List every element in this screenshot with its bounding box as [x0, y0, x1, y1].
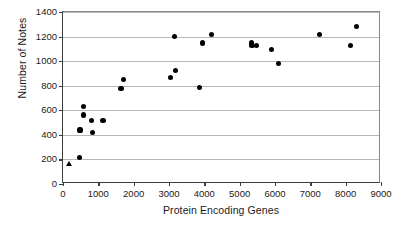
y-tick-mark [59, 37, 63, 38]
y-tick-label: 600 [41, 104, 57, 116]
data-point [168, 75, 173, 80]
data-point [90, 130, 95, 135]
x-tick-label: 8000 [335, 188, 356, 200]
y-tick-label: 0 [52, 178, 57, 190]
gridline [63, 12, 379, 13]
data-point [81, 104, 86, 109]
data-point [254, 43, 259, 48]
data-point [197, 85, 202, 90]
x-tick-mark [63, 182, 64, 186]
data-point [276, 61, 281, 66]
y-tick-label: 400 [41, 129, 57, 141]
gridline [63, 159, 379, 160]
y-tick-mark [59, 12, 63, 13]
y-tick-label: 200 [41, 153, 57, 165]
x-tick-mark [204, 182, 205, 186]
x-tick-label: 6000 [264, 188, 285, 200]
gridline [63, 110, 379, 111]
plot-area: 0200400600800100012001400 01000200030004… [62, 11, 380, 183]
data-point [348, 43, 353, 48]
y-tick-mark [59, 61, 63, 62]
gridline [63, 135, 379, 136]
y-tick-mark [59, 135, 63, 136]
gridline [63, 86, 379, 87]
x-tick-mark [346, 182, 347, 186]
gridline [63, 37, 379, 38]
data-point [173, 68, 178, 73]
x-tick-mark [275, 182, 276, 186]
gridline [63, 61, 379, 62]
data-point [118, 86, 123, 91]
x-tick-mark [310, 182, 311, 186]
y-tick-label: 1400 [36, 6, 57, 18]
x-tick-mark [381, 182, 382, 186]
x-tick-label: 0 [60, 188, 65, 200]
y-tick-mark [59, 159, 63, 160]
x-tick-label: 5000 [229, 188, 250, 200]
data-point [172, 34, 177, 39]
data-point [354, 24, 359, 29]
data-point [121, 77, 126, 82]
data-point [66, 161, 72, 166]
data-point [77, 127, 82, 132]
x-tick-label: 7000 [300, 188, 321, 200]
y-tick-label: 1000 [36, 55, 57, 67]
data-point [81, 112, 86, 117]
x-tick-mark [98, 182, 99, 186]
y-tick-label: 800 [41, 80, 57, 92]
x-tick-label: 1000 [88, 188, 109, 200]
y-tick-mark [59, 110, 63, 111]
x-tick-mark [134, 182, 135, 186]
data-point [200, 40, 205, 45]
x-tick-label: 3000 [158, 188, 179, 200]
x-tick-label: 4000 [194, 188, 215, 200]
data-point [89, 118, 94, 123]
y-tick-mark [59, 86, 63, 87]
data-point [209, 32, 214, 37]
x-tick-mark [169, 182, 170, 186]
data-point [317, 32, 322, 37]
x-tick-mark [240, 182, 241, 186]
x-tick-label: 9000 [370, 188, 391, 200]
scatter-chart: Number of Notes 020040060080010001200140… [0, 0, 404, 231]
x-tick-label: 2000 [123, 188, 144, 200]
data-point [100, 118, 105, 123]
y-axis-title: Number of Notes [16, 0, 28, 128]
y-tick-label: 1200 [36, 31, 57, 43]
data-point [269, 47, 274, 52]
x-axis-title: Protein Encoding Genes [62, 204, 380, 216]
